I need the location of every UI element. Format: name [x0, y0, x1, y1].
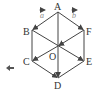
- vector-AB: [33, 12, 58, 30]
- label-E: E: [86, 56, 92, 67]
- edge-ED: [58, 61, 84, 78]
- vector-FO: [59, 30, 84, 46]
- label-B: B: [23, 26, 30, 37]
- vector-label-b: b: [72, 11, 76, 20]
- label-O: O: [49, 51, 56, 62]
- vector-AF: [58, 12, 83, 30]
- left-arrow-icon[interactable]: [6, 65, 14, 71]
- hexagon-diagram: A B C D E F O a b: [0, 0, 105, 100]
- label-C: C: [23, 56, 30, 67]
- vector-CD: [32, 61, 57, 78]
- label-F: F: [86, 26, 92, 37]
- label-A: A: [54, 1, 62, 12]
- label-D: D: [54, 80, 61, 91]
- vector-label-a: a: [40, 11, 44, 20]
